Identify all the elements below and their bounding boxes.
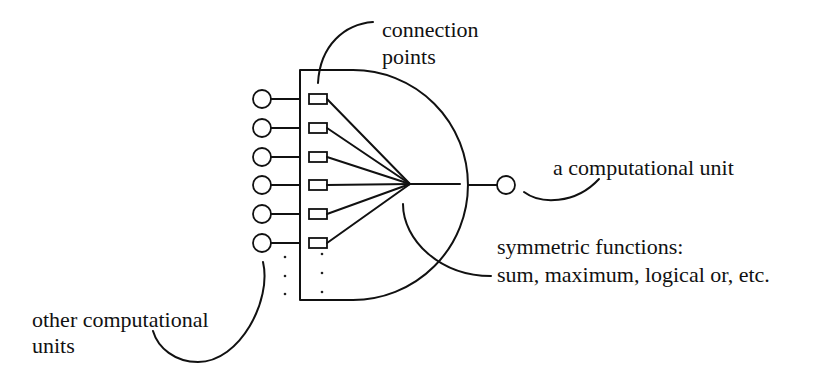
connection-point [309,94,327,104]
label-units: units [32,333,75,358]
input-unit-circle [253,148,271,166]
leader-symmetric-functions [403,204,491,276]
label-symmetric-functions: symmetric functions: [497,234,683,259]
connection-point [309,180,327,190]
label-computational-unit: a computational unit [553,155,734,180]
leader-computational-unit [524,179,599,200]
label-symmetric-examples: sum, maximum, logical or, etc. [497,262,770,287]
input-unit-circle [253,234,271,252]
diagram-canvas: connection points a computational unit s… [0,0,840,378]
input-unit-circle [253,176,271,194]
connection-point [309,238,327,248]
connection-points [309,94,327,248]
connection-point [309,152,327,162]
label-other-computational: other computational [32,307,209,332]
connection-point [309,209,327,219]
input-unit-circle [253,205,271,223]
connection-point [309,123,327,133]
input-unit-circle [253,119,271,137]
leader-connection-points [318,22,373,83]
input-unit-circle [253,90,271,108]
input-units [253,90,300,252]
diagram-svg: connection points a computational unit s… [0,0,840,378]
label-points: points [382,44,436,69]
fan-in-lines [327,99,410,243]
ellipsis-dots [284,253,324,296]
label-connection: connection [382,17,479,42]
output-unit-circle [497,176,515,194]
